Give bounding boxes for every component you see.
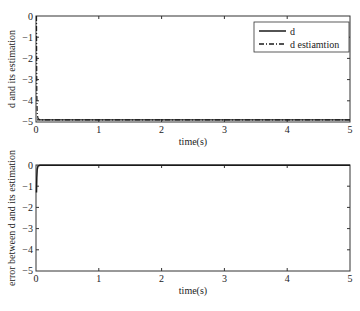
- legend-item-d-estimation: d estiamtion: [290, 39, 339, 50]
- top-ytick-5: −5: [22, 116, 33, 127]
- bottom-xtick-5: 5: [348, 273, 353, 284]
- top-ytick-4: −4: [22, 95, 33, 106]
- top-xtick-0: 0: [34, 124, 39, 135]
- bottom-ytick-2: −2: [22, 202, 33, 213]
- bottom-xtick-3: 3: [222, 273, 227, 284]
- legend: d d estiamtion: [254, 22, 349, 52]
- top-xtick-3: 3: [222, 124, 227, 135]
- top-xtick-2: 2: [159, 124, 164, 135]
- top-ytick-0: 0: [28, 11, 33, 22]
- top-subplot: 0 −1 −2 −3 −4 −5 0 1 2 3 4 5 time(s) d a…: [6, 11, 353, 148]
- bottom-ytick-1: −1: [22, 181, 33, 192]
- bottom-ytick-4: −4: [22, 244, 33, 255]
- top-xtick-1: 1: [96, 124, 101, 135]
- bottom-ytick-3: −3: [22, 223, 33, 234]
- top-xlabel: time(s): [179, 136, 207, 148]
- bottom-subplot: 0 −1 −2 −3 −4 −5 0 1 2 3 4 5 time(s) err…: [6, 150, 353, 297]
- bottom-xlabel: time(s): [179, 285, 207, 297]
- bottom-ytick-0: 0: [28, 160, 33, 171]
- top-xtick-4: 4: [285, 124, 290, 135]
- figure: 0 −1 −2 −3 −4 −5 0 1 2 3 4 5 time(s) d a…: [0, 0, 360, 311]
- top-ytick-1: −1: [22, 32, 33, 43]
- legend-item-d: d: [290, 26, 295, 37]
- bottom-xtick-2: 2: [159, 273, 164, 284]
- top-xtick-5: 5: [348, 124, 353, 135]
- bottom-xtick-0: 0: [34, 273, 39, 284]
- bottom-ylabel: error between d and its estimation: [6, 150, 17, 286]
- top-ytick-3: −3: [22, 74, 33, 85]
- top-ylabel: d and its estimation: [6, 30, 17, 108]
- top-ytick-2: −2: [22, 53, 33, 64]
- bottom-xtick-4: 4: [285, 273, 290, 284]
- bottom-xtick-1: 1: [96, 273, 101, 284]
- bottom-axes-box: [36, 165, 350, 271]
- bottom-ytick-5: −5: [22, 265, 33, 276]
